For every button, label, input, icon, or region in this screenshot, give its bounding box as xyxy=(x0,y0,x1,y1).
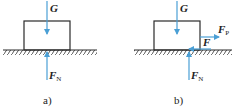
gravity-label-a: G xyxy=(50,2,58,14)
normal-force-label-b: FN xyxy=(190,69,203,83)
normal-force-label-a: FN xyxy=(48,69,61,83)
free-body-diagrams: G FN a) G FP F FN b) xyxy=(0,0,234,112)
panel-b: G FP F FN b) xyxy=(134,1,232,107)
ground-hatch-b xyxy=(134,50,232,55)
push-force-label: FP xyxy=(217,23,229,37)
friction-force-label: F xyxy=(202,36,211,48)
caption-a: a) xyxy=(43,94,52,107)
panel-a: G FN a) xyxy=(3,1,97,107)
ground-hatch-a xyxy=(3,50,97,55)
caption-b: b) xyxy=(174,94,184,107)
gravity-label-b: G xyxy=(180,2,188,14)
